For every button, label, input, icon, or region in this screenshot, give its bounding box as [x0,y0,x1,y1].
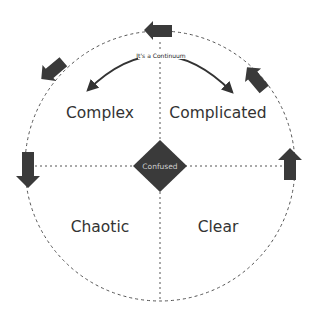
top-left-pointing-arrow-icon [144,21,172,40]
confused-diamond: Confused [133,140,187,192]
confused-label: Confused [142,162,177,171]
upper-right-arrow-icon [239,61,273,96]
cynefin-diagram: It's a Continuum Confused Complex Compli… [0,0,315,327]
continuum-label: It's a Continuum [136,52,185,59]
domain-label-clear: Clear [198,218,239,236]
domain-label-chaotic: Chaotic [71,218,130,236]
domain-label-complicated: Complicated [169,104,266,122]
left-down-arrow-icon [16,152,40,188]
domain-label-complex: Complex [66,104,134,122]
right-up-arrow-icon [278,148,302,180]
